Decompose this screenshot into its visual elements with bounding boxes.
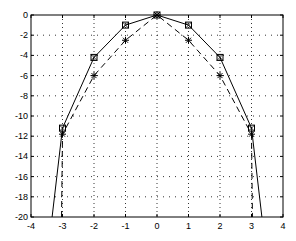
y-tick-label: -18 — [15, 192, 28, 202]
x-tick-label: 1 — [186, 221, 191, 231]
x-tick-label: 4 — [280, 221, 285, 231]
x-tick-label: -4 — [27, 221, 35, 231]
y-tick-label: -16 — [15, 172, 28, 182]
y-tick-label: -12 — [15, 131, 28, 141]
x-tick-label: 3 — [249, 221, 254, 231]
x-tick-label: -3 — [58, 221, 66, 231]
x-tick-label: 0 — [154, 221, 159, 231]
y-tick-label: -4 — [20, 50, 28, 60]
x-tick-label: 2 — [217, 221, 222, 231]
y-tick-label: -2 — [20, 30, 28, 40]
y-tick-label: 0 — [23, 10, 28, 20]
y-axis-tick-labels: 0-2-4-6-8-10-12-14-16-18-20 — [15, 10, 28, 222]
y-tick-label: -20 — [15, 212, 28, 222]
y-tick-label: -6 — [20, 71, 28, 81]
y-tick-label: -10 — [15, 111, 28, 121]
line-chart: -4-3-2-101234 0-2-4-6-8-10-12-14-16-18-2… — [0, 0, 296, 241]
x-axis-tick-labels: -4-3-2-101234 — [27, 221, 286, 231]
y-tick-label: -8 — [20, 91, 28, 101]
x-tick-label: -1 — [121, 221, 129, 231]
y-tick-label: -14 — [15, 151, 28, 161]
x-tick-label: -2 — [90, 221, 98, 231]
